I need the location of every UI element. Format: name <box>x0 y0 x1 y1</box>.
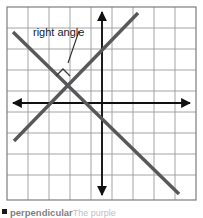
square-bullet-icon <box>2 209 7 214</box>
caption-rest: The purple <box>73 208 116 218</box>
caption: perpendicularThe purple <box>0 206 203 218</box>
right-angle-label: right angle <box>33 26 84 38</box>
caption-term: perpendicular <box>10 207 73 218</box>
coordinate-grid-graph: right angle <box>0 0 203 218</box>
perpendicular-lines-figure: right angle perpendicularThe purple <box>0 0 203 218</box>
